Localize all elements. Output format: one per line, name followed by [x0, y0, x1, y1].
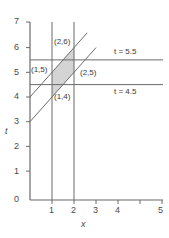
t-tick-label-2: 2: [14, 142, 19, 151]
vertex-label-1-5: (1,5): [31, 66, 47, 74]
t-tick-label-7: 7: [14, 17, 19, 26]
x-tick-label-3: 3: [93, 206, 98, 215]
level-label-lower: t = 4.5: [114, 88, 136, 96]
t-tick-label-5: 5: [14, 68, 19, 77]
t-tick-label-1: 1: [14, 167, 19, 176]
level-label-upper: t = 5.5: [114, 48, 136, 56]
vertex-label-1-4: (1,4): [54, 93, 70, 101]
t-tick-label-6: 6: [14, 43, 19, 52]
x-tick-label-4: 4: [115, 206, 120, 215]
vertex-label-2-6: (2,6): [54, 38, 70, 46]
t-tick-label-3: 3: [14, 117, 19, 126]
vertex-label-2-5: (2,5): [80, 69, 96, 77]
x-axis-label: x: [81, 220, 86, 229]
x-tick-label-2: 2: [71, 206, 76, 215]
x-tick-label-1: 1: [49, 206, 54, 215]
t-tick-label-0: 0: [14, 195, 19, 204]
t-tick-label-4: 4: [14, 92, 19, 101]
plot-canvas: [0, 0, 169, 238]
x-tick-label-5: 5: [158, 206, 163, 215]
shaded-parallelogram: [52, 48, 74, 97]
t-axis-label: t: [5, 127, 8, 136]
coordinate-plot-figure: 7 6 5 4 3 2 1 0 t 1 2 3 4 5 x (1,5) (2,6…: [0, 0, 169, 238]
x-axis-ticks: [52, 200, 162, 204]
